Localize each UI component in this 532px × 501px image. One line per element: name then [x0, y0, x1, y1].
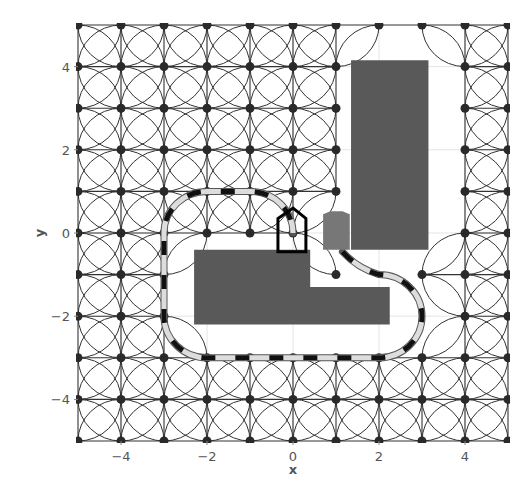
- lattice-arc: [121, 399, 164, 441]
- lattice-arc: [121, 67, 164, 109]
- lattice-arc: [78, 275, 121, 317]
- lattice-arc: [465, 191, 508, 233]
- lattice-arc: [465, 233, 508, 275]
- lattice-arc: [207, 108, 250, 150]
- lattice-arc: [250, 399, 293, 441]
- lattice-node: [289, 62, 298, 71]
- lattice-node: [332, 21, 341, 30]
- lattice-node: [246, 21, 255, 30]
- lattice-arc: [336, 358, 379, 400]
- x-axis-label: x: [289, 462, 298, 477]
- lattice-node: [160, 437, 169, 446]
- lattice-arc: [164, 67, 207, 109]
- lattice-node: [246, 437, 255, 446]
- lattice-arc: [164, 358, 207, 400]
- lattice-arc: [207, 67, 250, 109]
- lattice-arc: [465, 108, 508, 150]
- lattice-arc: [78, 233, 121, 275]
- lattice-arc: [164, 150, 207, 192]
- lattice-node: [160, 353, 169, 362]
- lattice-arc: [422, 399, 465, 441]
- lattice-arc: [121, 233, 164, 275]
- lattice-arc: [78, 150, 121, 192]
- lattice-node: [203, 104, 212, 113]
- lattice-arc: [250, 150, 293, 192]
- lattice-arc: [207, 191, 250, 233]
- lattice-arc: [164, 25, 207, 67]
- lattice-arc: [78, 67, 121, 109]
- lattice-arc: [78, 25, 121, 67]
- lattice-node: [117, 395, 126, 404]
- lattice-arc: [293, 67, 336, 109]
- lattice-arc: [78, 67, 121, 109]
- lattice-arc: [250, 25, 293, 67]
- lattice-arc: [293, 399, 336, 441]
- lattice-arc: [78, 316, 121, 358]
- lattice-node: [203, 395, 212, 404]
- lattice-node: [461, 312, 470, 321]
- lattice-arc: [78, 67, 121, 109]
- lattice-arc: [78, 191, 121, 233]
- lattice-arc: [336, 399, 379, 441]
- lattice-arc: [207, 25, 250, 67]
- lattice-arc: [207, 25, 250, 67]
- lattice-node: [117, 187, 126, 196]
- lattice-arc: [465, 150, 508, 192]
- lattice-node: [203, 62, 212, 71]
- lattice-arc: [465, 358, 508, 400]
- lattice-arc: [250, 25, 293, 67]
- lattice-node: [418, 437, 427, 446]
- lattice-arc: [422, 399, 465, 441]
- lattice-node: [461, 229, 470, 238]
- lattice-arc: [293, 358, 336, 400]
- lattice-arc: [465, 275, 508, 317]
- lattice-arc: [207, 25, 250, 67]
- lattice-arc: [207, 67, 250, 109]
- x-tick-label: −2: [197, 449, 216, 464]
- lattice-arc: [465, 25, 508, 67]
- lattice-arc: [121, 108, 164, 150]
- lattice-arc: [465, 316, 508, 358]
- y-axis-label: y: [32, 228, 47, 237]
- lattice-node: [160, 395, 169, 404]
- lattice-node: [246, 62, 255, 71]
- lattice-arc: [164, 150, 207, 192]
- lattice-arc: [465, 150, 508, 192]
- lattice-arc: [422, 316, 465, 358]
- lattice-arc: [121, 25, 164, 67]
- lattice-arc: [465, 191, 508, 233]
- lattice-arc: [164, 399, 207, 441]
- lattice-node: [504, 145, 513, 154]
- l-shaped-block: [194, 250, 390, 325]
- lattice-node: [117, 62, 126, 71]
- lattice-arc: [78, 25, 121, 67]
- lattice-arc: [164, 108, 207, 150]
- lattice-node: [74, 187, 83, 196]
- lattice-node: [74, 437, 83, 446]
- tall-rectangle: [351, 60, 428, 249]
- lattice-arc: [422, 275, 465, 317]
- start-vehicle-filled: [323, 211, 350, 249]
- lattice-node: [332, 104, 341, 113]
- lattice-arc: [250, 150, 293, 192]
- lattice-arc: [293, 108, 336, 150]
- lattice-arc: [207, 191, 250, 233]
- lattice-node: [332, 437, 341, 446]
- lattice-node: [504, 270, 513, 279]
- lattice-arc: [121, 191, 164, 233]
- lattice-node: [246, 145, 255, 154]
- lattice-arc: [121, 191, 164, 233]
- lattice-node: [461, 104, 470, 113]
- lattice-arc: [207, 191, 250, 233]
- lattice-arc: [207, 399, 250, 441]
- lattice-arc: [293, 150, 336, 192]
- lattice-arc: [207, 150, 250, 192]
- lattice-arc: [465, 67, 508, 109]
- lattice-arc: [121, 399, 164, 441]
- lattice-arc: [293, 358, 336, 400]
- lattice-node: [289, 145, 298, 154]
- lattice-arc: [336, 399, 379, 441]
- lattice-arc: [293, 399, 336, 441]
- lattice-arc: [78, 108, 121, 150]
- lattice-node: [332, 145, 341, 154]
